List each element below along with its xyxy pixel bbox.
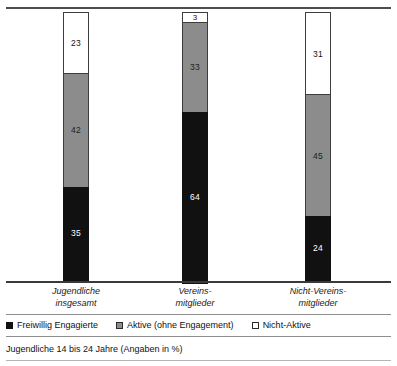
segment-freiwillig-engagierte[interactable]: 64 bbox=[182, 112, 208, 284]
legend-bottom-rule bbox=[6, 336, 391, 337]
clipped-title-remnant bbox=[0, 0, 397, 6]
footer-rule bbox=[6, 360, 391, 361]
category-label-line2: mitglieder bbox=[135, 298, 255, 310]
value-label: 35 bbox=[71, 228, 81, 238]
chart-legend: Freiwillig Engagierte Aktive (ohne Engag… bbox=[6, 318, 391, 332]
segment-aktive-ohne-engagement[interactable]: 45 bbox=[305, 95, 331, 216]
category-label-line1: Nicht-Vereins- bbox=[258, 286, 378, 298]
legend-item-nicht-aktive[interactable]: Nicht-Aktive bbox=[252, 320, 311, 330]
category-label-jugendliche-insgesamt: Jugendliche insgesamt bbox=[16, 286, 136, 309]
category-label-line1: Vereins- bbox=[135, 286, 255, 298]
value-label: 33 bbox=[190, 62, 200, 72]
bar-vereinsmitglieder[interactable]: 3 33 64 bbox=[182, 12, 208, 281]
value-label: 3 bbox=[193, 13, 198, 22]
category-label-nicht-vereinsmitglieder: Nicht-Vereins- mitglieder bbox=[258, 286, 378, 309]
legend-swatch-white-icon bbox=[252, 322, 259, 329]
legend-label: Nicht-Aktive bbox=[263, 320, 311, 330]
stacked-bar-chart-figure: 23 42 35 3 33 64 31 bbox=[0, 0, 397, 366]
legend-swatch-gray-icon bbox=[116, 322, 123, 329]
value-label: 42 bbox=[71, 125, 81, 135]
value-label: 64 bbox=[190, 192, 200, 202]
chart-footnote: Jugendliche 14 bis 24 Jahre (Angaben in … bbox=[6, 344, 391, 354]
plot-area: 23 42 35 3 33 64 31 bbox=[0, 8, 397, 281]
bar-nicht-vereinsmitglieder[interactable]: 31 45 24 bbox=[305, 12, 331, 281]
segment-nicht-aktive[interactable]: 3 bbox=[182, 12, 208, 23]
segment-aktive-ohne-engagement[interactable]: 33 bbox=[182, 23, 208, 112]
value-label: 45 bbox=[313, 151, 323, 161]
legend-item-freiwillig-engagierte[interactable]: Freiwillig Engagierte bbox=[6, 320, 98, 330]
category-label-line1: Jugendliche bbox=[16, 286, 136, 298]
legend-label: Aktive (ohne Engagement) bbox=[127, 320, 234, 330]
value-label: 24 bbox=[313, 243, 323, 253]
segment-freiwillig-engagierte[interactable]: 24 bbox=[305, 216, 331, 281]
legend-swatch-black-icon bbox=[6, 322, 13, 329]
bar-jugendliche-insgesamt[interactable]: 23 42 35 bbox=[63, 12, 89, 281]
category-label-line2: insgesamt bbox=[16, 298, 136, 310]
value-label: 23 bbox=[71, 38, 81, 48]
segment-nicht-aktive[interactable]: 31 bbox=[305, 12, 331, 95]
category-label-vereinsmitglieder: Vereins- mitglieder bbox=[135, 286, 255, 309]
category-label-line2: mitglieder bbox=[258, 298, 378, 310]
segment-aktive-ohne-engagement[interactable]: 42 bbox=[63, 74, 89, 187]
legend-top-rule bbox=[6, 314, 391, 315]
value-label: 31 bbox=[313, 49, 323, 59]
legend-item-aktive-ohne-engagement[interactable]: Aktive (ohne Engagement) bbox=[116, 320, 234, 330]
x-axis-baseline bbox=[6, 281, 391, 283]
legend-label: Freiwillig Engagierte bbox=[17, 320, 98, 330]
segment-freiwillig-engagierte[interactable]: 35 bbox=[63, 187, 89, 281]
segment-nicht-aktive[interactable]: 23 bbox=[63, 12, 89, 74]
